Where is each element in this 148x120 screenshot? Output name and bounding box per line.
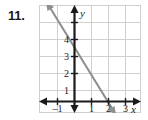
textbook-problem-figure: 11.	[0, 0, 148, 120]
graph-figure: –1 1 2 3 1 2 3 4 y x	[39, 5, 141, 113]
x-tick-label-neg1: –1	[52, 103, 63, 113]
x-tick-label-3: 3	[123, 103, 128, 113]
x-tick-label-1: 1	[89, 103, 94, 113]
y-tick-label-1: 1	[64, 85, 69, 96]
coordinate-plane-svg: –1 1 2 3 1 2 3 4 y x	[39, 5, 141, 113]
x-tick-label-2: 2	[106, 103, 111, 113]
y-tick-label-4: 4	[64, 34, 69, 45]
y-tick-label-2: 2	[64, 68, 69, 79]
x-axis-label: x	[130, 103, 136, 113]
problem-number-label: 11.	[8, 9, 24, 22]
y-axis-label: y	[79, 7, 85, 19]
y-tick-label-3: 3	[64, 51, 69, 62]
